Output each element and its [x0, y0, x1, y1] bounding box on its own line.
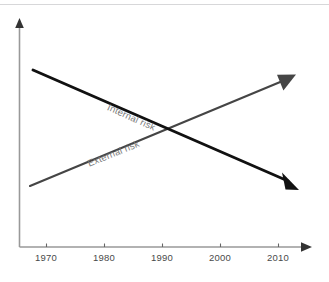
chart-canvas [0, 0, 329, 282]
year-axis-arrowhead [301, 242, 312, 252]
tick-label-1980: 1980 [93, 252, 115, 263]
value-axis-arrowhead [15, 18, 24, 28]
tick-label-1990: 1990 [151, 252, 173, 263]
series-arrowhead-internal-risk [282, 173, 299, 191]
tick-label-2010: 2010 [267, 252, 289, 263]
risk-trend-chart: 1970 1980 1990 2000 2010 Internal risk E… [0, 0, 329, 282]
series-line-internal-risk [33, 70, 288, 181]
series-line-external-risk [30, 80, 285, 186]
tick-label-1970: 1970 [35, 252, 57, 263]
tick-label-2000: 2000 [209, 252, 231, 263]
